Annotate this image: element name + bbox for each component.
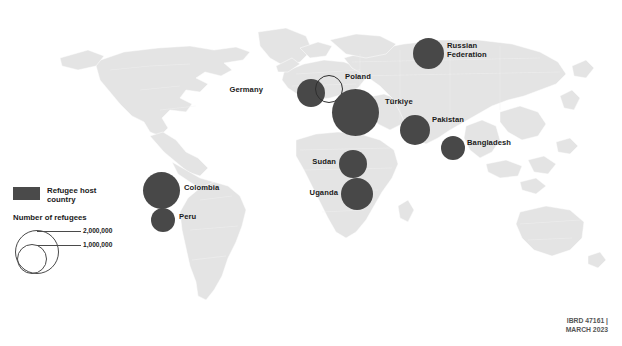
legend-size-title: Number of refugees (13, 213, 153, 222)
legend-circle-small (17, 244, 47, 274)
bubble-russian-federation[interactable] (413, 38, 444, 69)
legend-value-large: 2,000,000 (83, 227, 112, 234)
map-credit: IBRD 47161 | MARCH 2023 (566, 316, 608, 334)
bubble-label-bangladesh: Bangladesh (467, 139, 511, 148)
legend-host-country-row: Refugee host country (13, 186, 153, 205)
bubble-label-pakistan: Pakistan (432, 116, 464, 125)
bubble-label-germany: Germany (229, 86, 263, 95)
legend-host-country-swatch (13, 187, 40, 200)
bubble-label-t-rkiye: Türkiye (385, 98, 413, 107)
bubble-bangladesh[interactable] (441, 136, 465, 160)
legend-size-key: 2,000,000 1,000,000 (13, 226, 153, 278)
bubble-pakistan[interactable] (400, 115, 430, 145)
bubble-label-russian-federation: Russian Federation (447, 42, 487, 60)
credit-date: MARCH 2023 (566, 325, 608, 334)
bubble-layer: Russian FederationGermanyPolandTürkiyePa… (0, 0, 622, 346)
bubble-label-colombia: Colombia (184, 184, 219, 193)
bubble-label-peru: Peru (179, 213, 196, 222)
bubble-sudan[interactable] (339, 150, 367, 178)
bubble-peru[interactable] (151, 208, 175, 232)
bubble-uganda[interactable] (341, 178, 373, 210)
refugee-host-country-map: Russian FederationGermanyPolandTürkiyePa… (0, 0, 622, 346)
legend-leader-line-large (37, 231, 81, 232)
bubble-label-poland: Poland (345, 73, 371, 82)
bubble-label-sudan: Sudan (312, 158, 336, 167)
legend-host-country-label: Refugee host country (47, 186, 96, 205)
bubble-label-uganda: Uganda (310, 189, 338, 198)
credit-ibrd-number: IBRD 47161 | (566, 316, 608, 325)
legend: Refugee host country Number of refugees … (13, 186, 153, 278)
legend-value-small: 1,000,000 (83, 241, 112, 248)
legend-leader-line-small (37, 245, 81, 246)
bubble-t-rkiye[interactable] (332, 89, 379, 136)
